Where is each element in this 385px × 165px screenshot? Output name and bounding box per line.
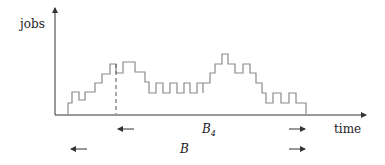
- interval-b4-subscript: 4: [211, 129, 216, 138]
- interval-b-label: B: [180, 143, 189, 155]
- y-axis-label: jobs: [20, 18, 45, 30]
- interval-b-symbol: B: [180, 142, 189, 156]
- interval-b4-label: B4: [202, 123, 216, 138]
- interval-b4-symbol: B: [202, 122, 211, 136]
- x-axis-label: time: [334, 123, 361, 135]
- jobs-step-curve: [68, 54, 306, 114]
- diagram-canvas: [0, 0, 385, 165]
